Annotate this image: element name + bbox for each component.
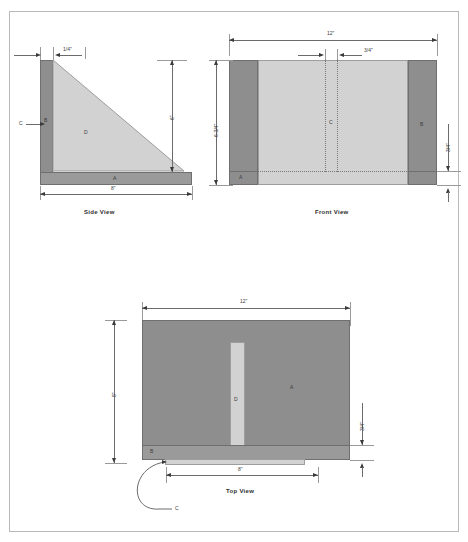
top-arrow-right-12 xyxy=(345,306,350,310)
side-dim-line-8 xyxy=(40,194,192,195)
top-arrow-left-8b xyxy=(166,473,171,477)
side-dim-line-a xyxy=(14,55,38,56)
side-label-d: D xyxy=(84,130,88,135)
front-label-b: B xyxy=(420,122,424,127)
top-ext-r-bot xyxy=(350,460,374,461)
front-view-title: Front View xyxy=(315,209,349,215)
front-dim-line-675 xyxy=(216,60,217,185)
front-part-c xyxy=(258,60,408,185)
front-dim-six-threequarter: 6-3/4" xyxy=(214,124,219,137)
top-view: 12" A D B C 8" 3/4" xyxy=(100,285,420,535)
front-ext-slot-a xyxy=(325,49,326,60)
side-arrow-left-8 xyxy=(40,192,45,196)
top-dim-twelve: 12" xyxy=(240,299,247,304)
front-base-edge-left xyxy=(229,171,259,172)
front-hidden-slot-right xyxy=(337,60,338,172)
top-part-d xyxy=(230,342,245,446)
side-arrow-right-a xyxy=(36,53,41,57)
front-arrow-left-12 xyxy=(229,38,234,42)
side-dim-eight: 8" xyxy=(111,186,116,191)
front-dim-twelve: 12" xyxy=(327,31,334,36)
top-ext-r-top xyxy=(350,445,374,446)
side-dim-line-b xyxy=(60,55,82,56)
top-dim-line-8b xyxy=(166,475,318,476)
front-ext-slot-b xyxy=(337,49,338,60)
top-view-title: Top View xyxy=(226,488,254,494)
front-hidden-slot-left xyxy=(325,60,326,172)
front-part-left-side xyxy=(229,60,258,185)
side-arrow-down-6 xyxy=(170,167,174,172)
side-label-c: C xyxy=(19,121,23,126)
front-hidden-base xyxy=(229,171,437,172)
top-label-c: C xyxy=(175,506,179,511)
top-ext-h-top xyxy=(105,320,127,321)
top-ext-b-right xyxy=(318,467,319,483)
front-ext-right xyxy=(437,34,438,56)
top-label-a: A xyxy=(290,385,294,390)
front-dim-line-12 xyxy=(229,40,437,41)
front-label-c: C xyxy=(329,120,333,125)
top-leader-c-curve xyxy=(120,457,180,523)
side-view: 1/4" B D A C 6" 8" Side View xyxy=(0,0,210,225)
front-arrow-up-675 xyxy=(214,60,218,65)
top-arrow-down-lip xyxy=(360,440,364,445)
top-label-b: B xyxy=(150,449,154,454)
top-arrow-c xyxy=(162,460,167,464)
top-label-d: D xyxy=(234,397,238,402)
front-arrow-slot-r xyxy=(319,53,324,57)
side-dim-quarter: 1/4" xyxy=(63,47,72,52)
front-dim-base: 3/4" xyxy=(446,143,451,152)
front-dim-line-slot-b xyxy=(344,55,362,56)
top-part-a xyxy=(142,320,350,460)
side-label-a: A xyxy=(113,176,117,181)
front-arrow-down-base xyxy=(446,166,450,171)
top-arrow-left-12 xyxy=(142,306,147,310)
side-ext-right2 xyxy=(85,47,86,59)
front-ext-h-top xyxy=(209,60,233,61)
side-dim-six: 6" xyxy=(170,115,175,120)
front-ext-r-bot xyxy=(437,185,461,186)
side-view-title: Side View xyxy=(84,209,115,215)
side-part-d-shape xyxy=(53,60,185,172)
top-arrow-right-8b xyxy=(313,473,318,477)
side-arrow-right-8 xyxy=(187,192,192,196)
front-dim-line-base2 xyxy=(448,192,449,202)
side-arrow-c xyxy=(40,122,45,126)
top-part-c xyxy=(165,459,305,465)
top-dim-eight-left: 8" xyxy=(112,392,117,397)
front-ext-r-top xyxy=(437,171,461,172)
front-label-a: A xyxy=(239,175,243,180)
front-base-edge-right xyxy=(408,171,437,172)
side-ext-b-right xyxy=(192,186,193,200)
top-arrow-down-8 xyxy=(112,458,116,463)
top-dim-eight-bottom: 8" xyxy=(238,467,243,472)
top-ext-h-bot xyxy=(105,463,127,464)
front-dim-slot: 3/4" xyxy=(364,48,373,53)
front-ext-h-bot xyxy=(209,185,233,186)
top-arrow-up-8 xyxy=(112,320,116,325)
front-arrow-right-12 xyxy=(432,38,437,42)
top-ext-right xyxy=(350,302,351,326)
front-arrow-down-675 xyxy=(214,180,218,185)
top-dim-threequarter: 3/4" xyxy=(360,422,365,431)
drawing-sheet: 1/4" B D A C 6" 8" Side View xyxy=(0,0,468,542)
side-arrow-up-6 xyxy=(170,60,174,65)
top-dim-line-lip2 xyxy=(362,467,363,477)
top-dim-line-12 xyxy=(142,308,350,309)
front-view: 12" 3/4" C B A 6-3/4" xyxy=(205,0,468,225)
